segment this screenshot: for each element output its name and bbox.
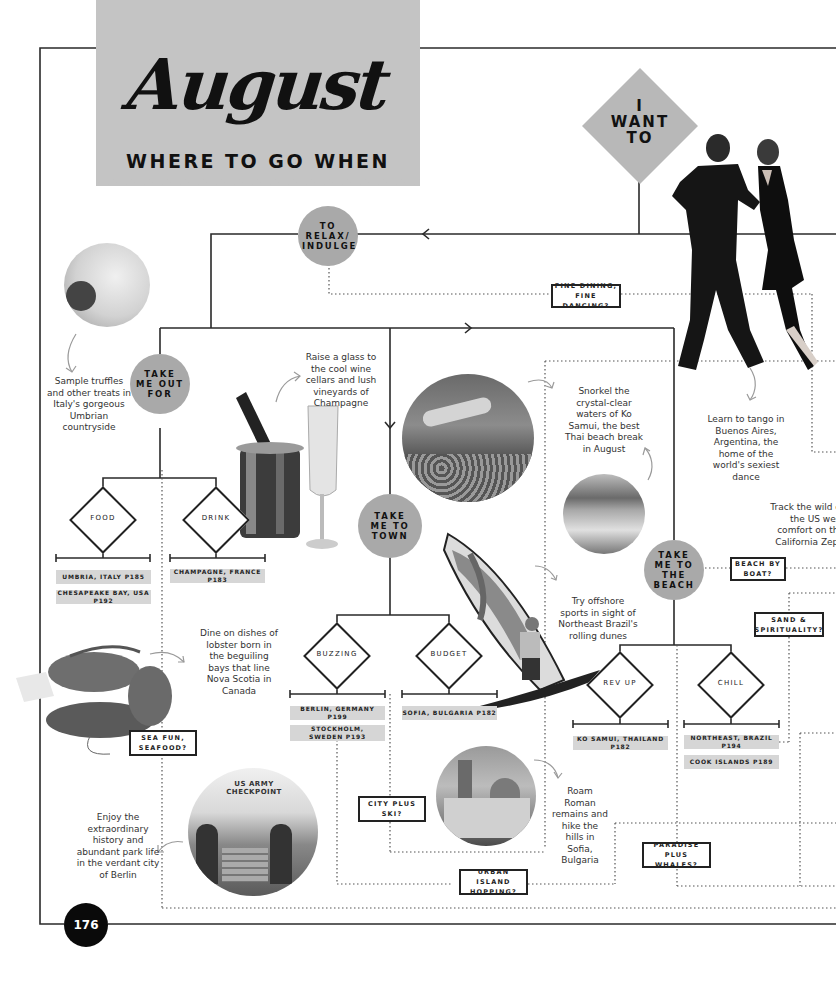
- sofia-cathedral-photo: [436, 746, 536, 846]
- checkpoint-charlie-photo: US ARMY CHECKPOINT: [188, 768, 318, 896]
- decision-rev-up[interactable]: REV UP: [585, 650, 655, 720]
- title-banner-scallop: [96, 176, 420, 190]
- pasta-truffle-photo: [64, 243, 150, 327]
- cathedral-body-shape: [444, 798, 530, 838]
- decision-budget[interactable]: BUDGET: [414, 621, 484, 691]
- decision-food-label: FOOD: [68, 514, 138, 522]
- decision-buzzing-label: BUZZING: [302, 650, 372, 658]
- question-sea-fun[interactable]: SEA FUN, SEAFOOD?: [129, 730, 197, 756]
- page-title: August: [91, 40, 424, 130]
- decision-drink[interactable]: DRINK: [181, 485, 251, 555]
- caption-lobster: Dine on dishes of lobster born in the be…: [200, 628, 278, 697]
- decision-chill-label: CHILL: [696, 679, 766, 687]
- question-fine-dining[interactable]: FINE DINING, FINE DANCING?: [551, 284, 621, 308]
- question-beach-boat[interactable]: BEACH BY BOAT?: [730, 557, 786, 581]
- decision-buzzing[interactable]: BUZZING: [302, 621, 372, 691]
- destination-northeast-brazil[interactable]: NORTHEAST, BRAZIL P194: [684, 735, 779, 749]
- decision-rev-up-label: REV UP: [585, 679, 655, 687]
- tango-dancers-photo: [668, 130, 828, 378]
- decision-drink-label: DRINK: [181, 514, 251, 522]
- caption-champagne: Raise a glass to the cool wine cellars a…: [302, 352, 380, 410]
- cathedral-dome-shape: [490, 778, 520, 800]
- start-label-line-1: I: [582, 98, 698, 114]
- destination-umbria[interactable]: UMBRIA, ITALY P185: [56, 570, 151, 584]
- cathedral-tower-shape: [458, 760, 472, 800]
- caption-offshore: Try offshore sports in sight of Northeas…: [558, 596, 638, 642]
- destination-stockholm[interactable]: STOCKHOLM, SWEDEN P193: [290, 725, 385, 741]
- truffle-shape: [66, 281, 96, 311]
- category-take-me-out-for[interactable]: TAKE ME OUT FOR: [130, 354, 190, 414]
- question-paradise-whales[interactable]: PARADISE PLUS WHALES?: [642, 842, 711, 868]
- soldier-right-shape: [270, 824, 292, 884]
- sandbags-shape: [222, 848, 268, 882]
- checkpoint-sign: US ARMY CHECKPOINT: [212, 780, 296, 792]
- category-out-for-label: TAKE ME OUT FOR: [134, 369, 186, 399]
- question-urban-island[interactable]: URBAN ISLAND HOPPING?: [459, 869, 528, 895]
- page-number-badge: 176: [64, 903, 108, 947]
- caption-berlin: Enjoy the extraordinary history and abun…: [76, 812, 160, 881]
- question-city-ski[interactable]: CITY PLUS SKI?: [358, 796, 426, 822]
- destination-chesapeake[interactable]: CHESAPEAKE BAY, USA P192: [56, 590, 151, 604]
- category-beach-label: TAKE ME TO THE BEACH: [649, 550, 699, 590]
- category-to-relax-indulge[interactable]: TO RELAX/ INDULGE: [298, 206, 358, 266]
- caption-truffles: Sample truffles and other treats in Ital…: [46, 376, 132, 434]
- decision-food[interactable]: FOOD: [68, 485, 138, 555]
- category-town-label: TAKE ME TO TOWN: [368, 511, 412, 541]
- tango-dancers-illustration: [668, 130, 828, 378]
- decision-budget-label: BUDGET: [414, 650, 484, 658]
- category-take-me-to-town[interactable]: TAKE ME TO TOWN: [358, 494, 422, 558]
- category-to-relax-label: TO RELAX/ INDULGE: [302, 221, 354, 251]
- category-take-me-to-the-beach[interactable]: TAKE ME TO THE BEACH: [644, 540, 704, 600]
- destination-berlin[interactable]: BERLIN, GERMANY P199: [290, 706, 385, 720]
- destination-champagne[interactable]: CHAMPAGNE, FRANCE P183: [170, 569, 265, 583]
- destination-cook-islands[interactable]: COOK ISLANDS P189: [684, 755, 779, 769]
- caption-sofia: Roam Roman remains and hike the hills in…: [552, 786, 608, 867]
- destination-ko-samui[interactable]: KO SAMUI, THAILAND P182: [573, 736, 668, 750]
- question-sand-spirituality[interactable]: SAND & SPIRITUALITY?: [754, 612, 824, 637]
- destination-sofia[interactable]: SOFIA, BULGARIA P182: [402, 706, 497, 720]
- caption-tango: Learn to tango in Buenos Aires, Argentin…: [706, 414, 786, 483]
- coral-shape: [402, 454, 534, 502]
- page-subtitle: WHERE TO GO WHEN: [96, 150, 420, 172]
- caption-snorkel: Snorkel the crystal-clear waters of Ko S…: [562, 386, 646, 455]
- decision-chill[interactable]: CHILL: [696, 650, 766, 720]
- caption-zephyr: Track the wild of the US west comfort on…: [768, 502, 836, 548]
- soldier-left-shape: [196, 824, 218, 884]
- snorkel-reef-photo: [402, 374, 534, 502]
- start-label-line-2: WANT: [582, 114, 698, 130]
- snorkeler-shape: [421, 396, 493, 428]
